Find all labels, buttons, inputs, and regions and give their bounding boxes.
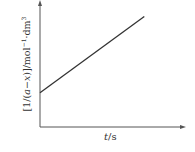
y-axis-arrow-icon bbox=[38, 0, 42, 6]
x-axis-arrow-icon bbox=[180, 125, 186, 129]
x-axis-label: t/s bbox=[104, 131, 117, 142]
y-axis-label: [1/(a−x)]/mol−1·dm3 bbox=[20, 17, 32, 112]
data-line bbox=[40, 17, 144, 93]
